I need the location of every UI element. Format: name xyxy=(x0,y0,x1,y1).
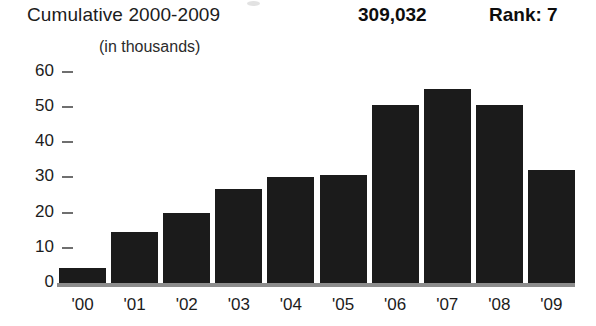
y-axis-label: 50 xyxy=(0,96,54,116)
bar xyxy=(528,170,575,283)
bar xyxy=(320,175,367,283)
y-axis-label-text: 40 xyxy=(0,131,54,151)
y-axis-label: 0 xyxy=(0,272,54,292)
bar xyxy=(111,232,158,283)
y-axis-label: 40 xyxy=(0,131,54,151)
y-axis-label-text: 60 xyxy=(0,61,54,81)
x-axis-label: '05 xyxy=(320,295,367,315)
x-axis-baseline xyxy=(57,283,575,287)
y-axis-label: 60 xyxy=(0,61,54,81)
bar xyxy=(267,177,314,283)
bar xyxy=(215,189,262,283)
y-axis-label-text: 10 xyxy=(0,237,54,257)
y-axis-label: 20 xyxy=(0,202,54,222)
y-axis-tick xyxy=(62,106,73,108)
x-axis-label: '08 xyxy=(476,295,523,315)
x-axis-label: '09 xyxy=(528,295,575,315)
y-axis-label-text: 50 xyxy=(0,96,54,116)
x-axis-label: '00 xyxy=(59,295,106,315)
bar xyxy=(476,105,523,283)
y-axis-label-text: 20 xyxy=(0,202,54,222)
y-axis-label: 30 xyxy=(0,166,54,186)
y-axis-label-text: 30 xyxy=(0,166,54,186)
bar xyxy=(163,213,210,283)
y-axis-label-text: 0 xyxy=(0,272,54,292)
bar xyxy=(424,89,471,283)
x-axis-label: '06 xyxy=(372,295,419,315)
bar-chart: 0102030405060 '00'01'02'03'04'05'06'07'0… xyxy=(0,0,596,326)
y-axis-tick xyxy=(62,176,73,178)
bar xyxy=(59,268,106,283)
x-axis-label: '02 xyxy=(163,295,210,315)
x-axis-label: '07 xyxy=(424,295,471,315)
y-axis-label: 10 xyxy=(0,237,54,257)
y-axis-tick xyxy=(62,71,73,73)
chart-page: Cumulative 2000-2009 309,032 Rank: 7 (in… xyxy=(0,0,596,326)
x-axis-label: '01 xyxy=(111,295,158,315)
x-axis-label: '04 xyxy=(267,295,314,315)
x-axis-label: '03 xyxy=(215,295,262,315)
bar xyxy=(372,105,419,283)
y-axis-tick xyxy=(62,212,73,214)
y-axis-tick xyxy=(62,247,73,249)
y-axis-tick xyxy=(62,141,73,143)
